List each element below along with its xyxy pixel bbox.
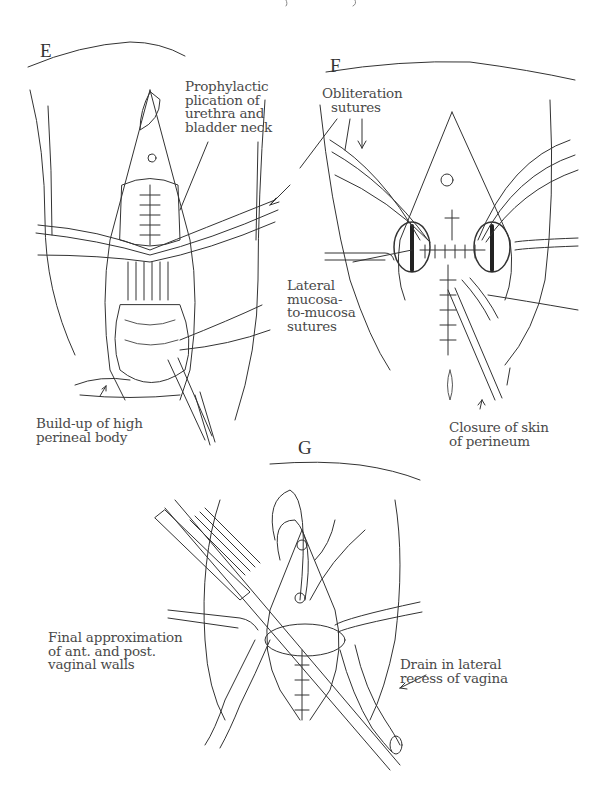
drain-label: Drain in lateral recess of vagina	[400, 658, 508, 685]
panel-g-drawing	[155, 462, 426, 770]
panel-letter-e: E	[40, 40, 52, 62]
panel-letter-g: G	[298, 437, 312, 459]
lateral-mucosa-label: Lateral mucosa- to-mucosa sutures	[287, 279, 355, 333]
closure-skin-label: Closure of skin of perineum	[449, 421, 549, 448]
panel-letter-f: F	[330, 55, 341, 77]
perineal-body-label: Build-up of high perineal body	[36, 417, 143, 444]
surgical-illustration	[0, 0, 605, 795]
final-approximation-label: Final approximation of ant. and post. va…	[48, 631, 183, 672]
obliteration-sutures-label: Obliteration sutures	[322, 87, 402, 114]
prophylactic-plication-label: Prophylactic plication of urethra and bl…	[185, 80, 272, 134]
